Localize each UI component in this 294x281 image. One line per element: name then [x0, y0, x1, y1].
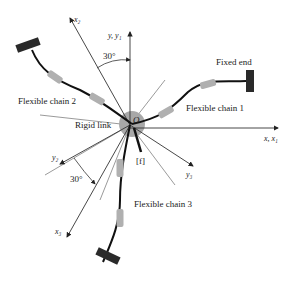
label-chain3: Flexible chain 3	[134, 199, 192, 209]
label-angle-bottom: 30°	[70, 174, 83, 184]
label-frame: [f]	[136, 156, 145, 166]
chain2-anchor	[15, 37, 40, 53]
label-y3: y₃	[185, 170, 193, 179]
multi-chain-diagram: Fixed end Flexible chain 1 Flexible chai…	[0, 0, 294, 281]
label-origin: O	[133, 115, 140, 125]
label-chain1: Flexible chain 1	[186, 103, 244, 113]
chain-3	[103, 125, 130, 262]
label-angle-top: 30°	[103, 51, 116, 61]
label-x2: x₂	[73, 15, 81, 24]
fixed-end-anchor	[246, 70, 254, 92]
label-chain2: Flexible chain 2	[18, 96, 76, 106]
label-x3: x₃	[54, 227, 62, 236]
label-y-y1: y, y₁	[107, 31, 122, 40]
label-y2: y₂	[51, 153, 59, 162]
chain-2	[32, 50, 132, 124]
label-fixed-end: Fixed end	[216, 57, 252, 67]
label-rigid-link: Rigid link	[75, 120, 112, 130]
label-x-x1: x, x₁	[263, 134, 278, 143]
